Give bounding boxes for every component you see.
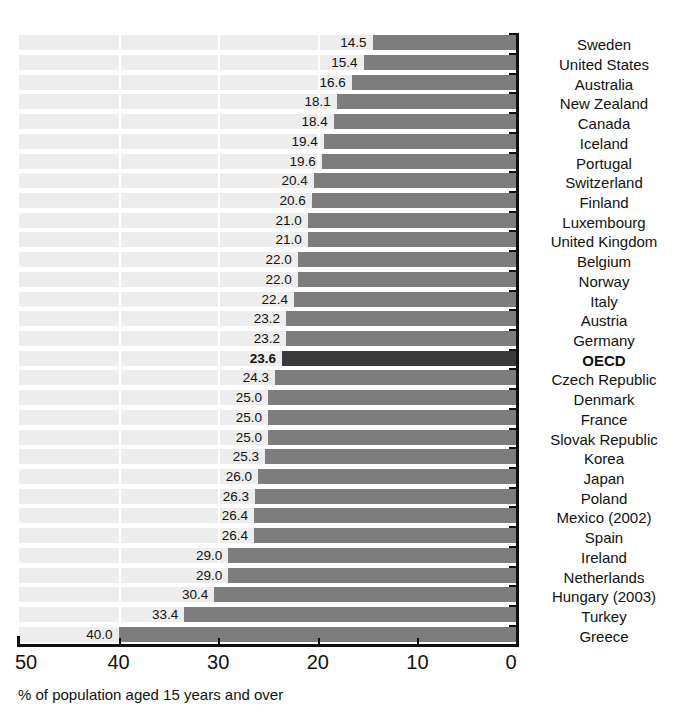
- bar-value-label: 21.0: [252, 233, 302, 247]
- category-tick: [509, 625, 517, 627]
- category-tick: [509, 349, 517, 351]
- x-axis-tick-label: 50: [6, 652, 46, 672]
- category-tick: [509, 428, 517, 430]
- bar: [334, 114, 517, 129]
- x-axis-tick-label: 10: [397, 652, 437, 672]
- bar: [364, 55, 517, 70]
- bar: [214, 587, 517, 602]
- category-label: Belgium: [534, 254, 674, 269]
- bar-value-label: 25.0: [212, 431, 262, 445]
- bar-value-label: 26.4: [198, 509, 248, 523]
- bar-value-label: 23.6: [226, 352, 276, 366]
- bar-value-label: 29.0: [172, 549, 222, 563]
- category-label: Turkey: [534, 609, 674, 624]
- category-tick: [509, 447, 517, 449]
- category-label: Iceland: [534, 136, 674, 151]
- category-tick: [509, 290, 517, 292]
- bar: [282, 351, 517, 366]
- bar: [324, 134, 517, 149]
- category-tick: [509, 487, 517, 489]
- category-tick: [509, 171, 517, 173]
- category-label: Korea: [534, 451, 674, 466]
- category-label: Mexico (2002): [534, 510, 674, 525]
- bar: [286, 331, 517, 346]
- category-label: Italy: [534, 294, 674, 309]
- bar-value-label: 20.4: [258, 174, 308, 188]
- category-label: Ireland: [534, 550, 674, 565]
- bar-value-label: 25.3: [209, 450, 259, 464]
- category-tick: [509, 230, 517, 232]
- bar: [337, 94, 517, 109]
- bar: [298, 272, 517, 287]
- x-axis-tick: [318, 638, 320, 645]
- bar-value-label: 18.4: [278, 115, 328, 129]
- category-tick: [509, 368, 517, 370]
- bar: [352, 75, 517, 90]
- bar-value-label: 29.0: [172, 569, 222, 583]
- bar: [294, 292, 517, 307]
- category-tick: [509, 585, 517, 587]
- bar: [312, 193, 517, 208]
- category-label: Germany: [534, 333, 674, 348]
- category-label: Netherlands: [534, 570, 674, 585]
- category-tick: [509, 211, 517, 213]
- bar-value-label: 40.0: [63, 628, 113, 642]
- bar: [308, 213, 517, 228]
- category-label: Finland: [534, 195, 674, 210]
- bar: [298, 252, 517, 267]
- bar: [268, 410, 517, 425]
- category-tick: [509, 33, 517, 35]
- category-label: Canada: [534, 116, 674, 131]
- category-label: Poland: [534, 491, 674, 506]
- category-label: Norway: [534, 274, 674, 289]
- bar-value-label: 23.2: [230, 332, 280, 346]
- bar: [314, 173, 517, 188]
- bar: [268, 390, 517, 405]
- bar: [275, 370, 517, 385]
- category-tick: [509, 467, 517, 469]
- category-label: Slovak Republic: [534, 432, 674, 447]
- bar-value-label: 23.2: [230, 312, 280, 326]
- category-tick: [509, 388, 517, 390]
- bar-value-label: 19.6: [266, 155, 316, 169]
- category-tick: [509, 270, 517, 272]
- category-label: Greece: [534, 629, 674, 644]
- gridline: [119, 33, 121, 644]
- bar-value-label: 21.0: [252, 214, 302, 228]
- category-label: United States: [534, 57, 674, 72]
- value-axis-spine: [516, 33, 519, 645]
- category-tick: [509, 191, 517, 193]
- category-tick: [509, 526, 517, 528]
- bar-value-label: 26.4: [198, 529, 248, 543]
- x-axis-tick: [417, 638, 419, 645]
- bar: [268, 430, 517, 445]
- category-tick: [509, 250, 517, 252]
- category-label: Hungary (2003): [534, 589, 674, 604]
- bar-value-label: 25.0: [212, 411, 262, 425]
- category-label: Sweden: [534, 37, 674, 52]
- x-axis-tick-label: 30: [198, 652, 238, 672]
- bar-value-label: 22.0: [242, 253, 292, 267]
- bar-value-label: 26.3: [199, 490, 249, 504]
- bar-value-label: 26.0: [202, 470, 252, 484]
- category-label: United Kingdom: [534, 234, 674, 249]
- category-label: Denmark: [534, 392, 674, 407]
- bar-value-label: 22.4: [238, 293, 288, 307]
- category-label: Switzerland: [534, 175, 674, 190]
- bar: [286, 311, 517, 326]
- x-axis-tick: [119, 638, 121, 645]
- bar-value-label: 14.5: [317, 36, 367, 50]
- category-label: New Zealand: [534, 96, 674, 111]
- category-tick: [509, 566, 517, 568]
- category-label: France: [534, 412, 674, 427]
- category-label: Spain: [534, 530, 674, 545]
- category-label: Czech Republic: [534, 372, 674, 387]
- category-tick: [509, 53, 517, 55]
- bar-value-label: 20.6: [256, 194, 306, 208]
- category-tick: [509, 408, 517, 410]
- category-tick: [509, 309, 517, 311]
- bar-value-label: 24.3: [219, 371, 269, 385]
- bar: [254, 528, 517, 543]
- bar-value-label: 33.4: [128, 608, 178, 622]
- bar: [258, 469, 517, 484]
